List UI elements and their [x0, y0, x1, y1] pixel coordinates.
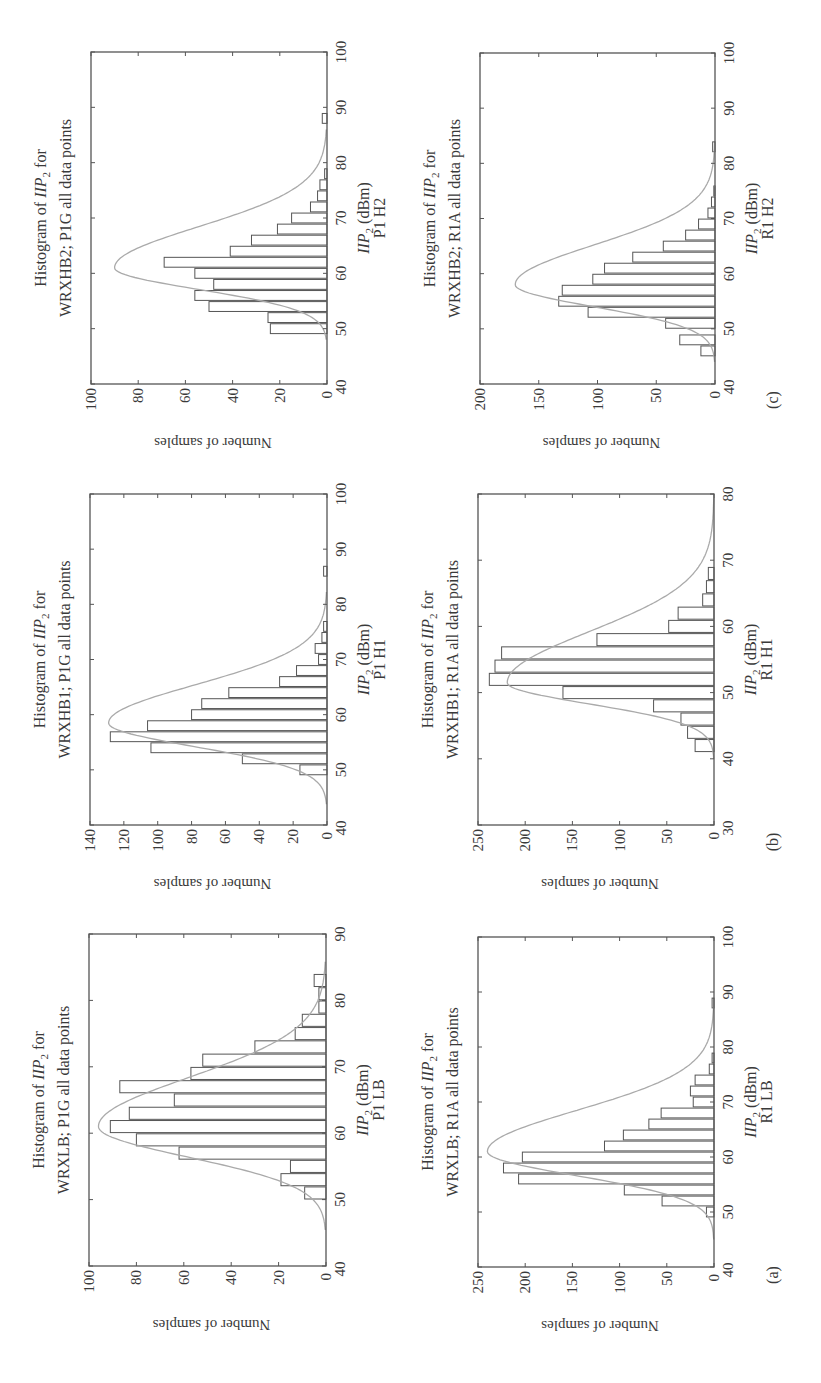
x-tick-label: 40: [720, 751, 736, 766]
panel-title-line2: WRXHB1; P1G all data points: [56, 560, 74, 758]
x-tick-label: 70: [332, 1059, 348, 1074]
x-tick-label: 40: [332, 1262, 348, 1277]
histogram-bar: [320, 180, 327, 190]
histogram-figure: 405060708090020406080100Number of sample…: [0, 0, 821, 1383]
histogram-bar: [502, 647, 714, 659]
histogram-bar: [270, 324, 327, 334]
histogram-bar: [280, 677, 327, 687]
histogram-panel-p1h1: 405060708090100020406080100120140Number …: [31, 483, 388, 892]
y-tick-label: 120: [116, 829, 132, 852]
x-tick-label: 70: [720, 553, 736, 568]
histogram-bar: [148, 721, 327, 731]
x-tick-label: 90: [720, 985, 736, 1000]
histogram-bar: [522, 1152, 714, 1162]
panel-title-line1: Histogram of IIP2 for: [31, 590, 51, 728]
histogram-bar: [662, 1196, 714, 1206]
histogram-panel-r1h1: 304050607080050100150200250Number of sam…: [419, 487, 775, 893]
histogram-bar: [623, 1130, 714, 1140]
y-tick-label: 100: [612, 829, 628, 852]
x-tick-label: 90: [333, 100, 349, 115]
x-tick-label: 80: [333, 597, 349, 612]
x-tick-label: 60: [333, 707, 349, 722]
x-tick-label: 60: [332, 1126, 348, 1141]
histogram-bar: [708, 567, 714, 579]
gaussian-fit-curve: [109, 592, 327, 804]
histogram-bar: [295, 1028, 326, 1040]
y-tick-label: 200: [517, 829, 533, 852]
y-tick-label: 150: [564, 829, 580, 852]
y-axis-label: Number of samples: [154, 435, 272, 451]
x-axis-caption: P1 LB: [370, 1079, 387, 1120]
x-tick-label: 40: [333, 380, 349, 395]
histogram-bar: [110, 1121, 326, 1133]
panel-title-line2: WRXHB2; P1G all data points: [57, 119, 75, 317]
histogram-bar: [624, 1185, 714, 1195]
x-tick-label: 40: [333, 821, 349, 836]
y-axis-label: Number of samples: [153, 1317, 271, 1333]
x-tick-label: 50: [721, 321, 737, 336]
x-tick-label: 40: [721, 380, 737, 395]
histogram-bar: [292, 213, 327, 223]
x-tick-label: 100: [721, 42, 737, 65]
histogram-bar: [202, 699, 327, 709]
histogram-bar: [151, 743, 327, 753]
x-tick-label: 50: [333, 762, 349, 777]
x-axis-caption: P1 H2: [371, 198, 388, 238]
y-tick-label: 50: [648, 388, 664, 403]
histogram-bar: [709, 1064, 714, 1074]
panel-title-line1: Histogram of IIP2 for: [30, 1031, 50, 1169]
histogram-bar: [318, 191, 327, 201]
panel-title-line1: Histogram of IIP2 for: [419, 1033, 439, 1171]
y-tick-label: 50: [659, 1271, 675, 1286]
histogram-bar: [699, 219, 715, 229]
histogram-bar: [209, 302, 327, 312]
y-tick-label: 60: [176, 1270, 192, 1285]
y-tick-label: 0: [319, 832, 335, 840]
y-axis-label: Number of samples: [541, 1318, 659, 1334]
y-tick-label: 20: [271, 1270, 287, 1285]
x-axis-caption: R1 H2: [759, 197, 776, 239]
histogram-bar: [251, 235, 327, 245]
y-tick-label: 20: [272, 388, 288, 403]
histogram-bar: [164, 257, 327, 267]
x-tick-label: 80: [721, 156, 737, 171]
x-tick-label: 60: [333, 266, 349, 281]
panel-label: (c): [764, 391, 782, 409]
y-tick-label: 60: [217, 829, 233, 844]
histogram-bar: [669, 620, 714, 632]
histogram-panel-r1h2: 405060708090100050100150200Number of sam…: [421, 42, 776, 451]
histogram-bar: [192, 710, 327, 720]
histogram-panel-r1lb: 405060708090100050100150200250Number of …: [419, 926, 775, 1334]
histogram-bar: [597, 634, 714, 646]
x-tick-label: 70: [333, 652, 349, 667]
y-tick-label: 200: [472, 388, 488, 411]
histogram-bar: [229, 688, 327, 698]
y-tick-label: 80: [184, 829, 200, 844]
y-tick-label: 150: [531, 388, 547, 411]
histogram-panel-p1lb: 405060708090020406080100Number of sample…: [30, 927, 387, 1334]
y-axis-label: Number of samples: [541, 876, 659, 892]
histogram-panel-p1h2: 405060708090100020406080100Number of sam…: [32, 41, 388, 451]
histogram-bar: [214, 279, 327, 289]
y-tick-label: 100: [590, 388, 606, 411]
histogram-bar: [495, 660, 714, 672]
y-tick-label: 200: [517, 1271, 533, 1294]
histogram-bar: [686, 230, 715, 240]
y-tick-label: 40: [223, 1270, 239, 1285]
panel-title-line1: Histogram of IIP2 for: [32, 149, 52, 287]
panel-title-line2: WRXLB; R1A all data points: [444, 1007, 462, 1196]
panel-label: (b): [764, 833, 782, 852]
x-axis-caption: R1 H1: [758, 638, 775, 680]
x-tick-label: 80: [720, 1040, 736, 1055]
histogram-bar: [633, 252, 715, 262]
y-tick-label: 40: [225, 388, 241, 403]
x-tick-label: 70: [333, 211, 349, 226]
histogram-bar: [179, 1147, 326, 1159]
x-tick-label: 50: [720, 1205, 736, 1220]
histogram-bar: [703, 594, 714, 606]
x-tick-label: 60: [720, 619, 736, 634]
x-tick-label: 90: [332, 927, 348, 942]
y-tick-label: 80: [130, 388, 146, 403]
x-tick-label: 70: [720, 1095, 736, 1110]
histogram-bar: [297, 666, 327, 676]
